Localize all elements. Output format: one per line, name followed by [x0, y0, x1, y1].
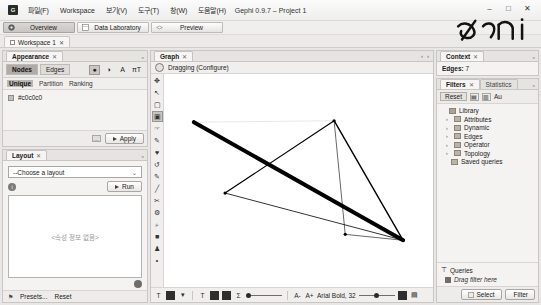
tab-filters[interactable]: Filters ✕: [440, 79, 480, 89]
tab-layout-close-icon[interactable]: ✕: [36, 152, 41, 159]
mode-data-laboratory-button[interactable]: Data Laboratory: [77, 22, 149, 33]
label-size-down-icon[interactable]: A-: [293, 291, 302, 300]
chevron-right-icon[interactable]: ›: [446, 133, 451, 139]
select-button[interactable]: Select: [461, 289, 501, 300]
screenshot-icon[interactable]: ▤: [410, 291, 419, 300]
graph-node[interactable]: [223, 191, 226, 194]
filter-button[interactable]: Filter: [505, 289, 535, 300]
line-tool-icon[interactable]: ╱: [152, 183, 163, 194]
tab-context-close-icon[interactable]: ✕: [473, 53, 478, 60]
appearance-tab-nodes[interactable]: Nodes: [6, 64, 38, 75]
brush-tool-icon[interactable]: ♥: [152, 147, 163, 158]
graph-edge[interactable]: [194, 122, 403, 240]
graph-node[interactable]: [402, 239, 405, 242]
square-tool-icon[interactable]: ■: [152, 231, 163, 242]
tree-item-dynamic[interactable]: › Dynamic: [441, 124, 534, 131]
pencil-tool-icon[interactable]: ✎: [152, 171, 163, 182]
mode-preview-button[interactable]: Preview: [151, 22, 223, 33]
color-box-icon[interactable]: [398, 291, 407, 300]
appearance-mode-partition[interactable]: Partition: [39, 80, 63, 87]
tree-item-edges[interactable]: › Edges: [441, 133, 534, 140]
reset-link[interactable]: Reset: [54, 293, 71, 300]
color-icon[interactable]: ●: [89, 65, 100, 75]
gear-icon[interactable]: [134, 280, 142, 288]
node-select-icon[interactable]: ▣: [152, 111, 163, 122]
tree-item-saved-queries[interactable]: Saved queries: [441, 158, 534, 165]
context-minimize-icon[interactable]: ▫: [533, 54, 535, 61]
label-size-slider[interactable]: [359, 293, 395, 298]
minimize-button[interactable]: –: [480, 1, 499, 15]
menu-tools[interactable]: 도구(T): [137, 4, 160, 16]
workspace-close-icon[interactable]: ✕: [59, 39, 64, 46]
layout-select[interactable]: --Choose a layout ⌄: [8, 166, 142, 178]
size-icon[interactable]: ◑: [103, 65, 114, 75]
tree-item-operator[interactable]: › Operator: [441, 141, 534, 148]
cursor-tool-icon[interactable]: ↖: [152, 87, 163, 98]
tab-graph[interactable]: Graph ✕: [154, 51, 193, 61]
graph-node[interactable]: [192, 121, 195, 124]
graph-node[interactable]: [344, 233, 347, 236]
graph-node[interactable]: [333, 119, 336, 122]
label-font-button[interactable]: Arial Bold, 32: [317, 292, 356, 299]
menu-help[interactable]: 도움말(H): [197, 4, 227, 16]
settings-tool-icon[interactable]: ⚙: [152, 207, 163, 218]
tree-item-attributes[interactable]: › Attributes: [441, 116, 534, 123]
node-shape-icon[interactable]: [166, 291, 175, 300]
menu-window[interactable]: 창(W): [169, 4, 188, 16]
appearance-minimize-icon[interactable]: ▫: [142, 54, 144, 61]
mode-overview-button[interactable]: Overview: [3, 22, 75, 33]
presets-link[interactable]: Presets...: [20, 293, 47, 300]
rotate-tool-icon[interactable]: ↺: [152, 159, 163, 170]
graph-edge[interactable]: [225, 193, 403, 240]
appearance-tab-edges[interactable]: Edges: [40, 64, 70, 75]
scissors-tool-icon[interactable]: ✂: [152, 195, 163, 206]
info-icon[interactable]: i: [8, 183, 16, 191]
filter-export-icon[interactable]: ▥: [482, 93, 491, 101]
menu-view[interactable]: 보기(V): [105, 4, 128, 16]
graph-edge[interactable]: [194, 121, 334, 122]
color-row[interactable]: #c0c0c0: [8, 94, 142, 101]
layout-minimize-icon[interactable]: ▫: [142, 153, 144, 160]
chevron-right-icon[interactable]: ›: [446, 125, 451, 131]
run-button[interactable]: Run: [107, 181, 142, 192]
tab-layout[interactable]: Layout ✕: [6, 150, 47, 160]
chevron-right-icon[interactable]: ›: [446, 142, 451, 148]
palette-button[interactable]: …: [92, 135, 101, 142]
menu-file[interactable]: 파일(F): [27, 4, 50, 16]
tab-context[interactable]: Context ✕: [440, 51, 484, 61]
tab-statistics[interactable]: Statistics: [480, 79, 518, 89]
graph-visualization[interactable]: [164, 74, 433, 287]
graph-edge[interactable]: [225, 121, 334, 193]
drag-tool-icon[interactable]: ✥: [152, 75, 163, 86]
label-toggle-icon[interactable]: T: [154, 291, 163, 300]
tab-appearance[interactable]: Appearance ✕: [6, 51, 63, 61]
graph-canvas[interactable]: [164, 74, 433, 287]
appearance-mode-ranking[interactable]: Ranking: [69, 80, 93, 87]
filters-minimize-icon[interactable]: ▫: [533, 82, 535, 89]
graph-tool-label[interactable]: Dragging (Configure): [168, 64, 229, 71]
label-size-icon[interactable]: πT: [131, 65, 142, 75]
graph-nav-next-icon[interactable]: ›: [427, 53, 429, 59]
maximize-button[interactable]: □: [499, 1, 518, 15]
filters-autoapply-label[interactable]: Au: [494, 93, 502, 100]
menu-workspace[interactable]: Workspace: [59, 6, 96, 15]
dropdown-icon[interactable]: ▾: [178, 291, 187, 300]
filters-reset-button[interactable]: Reset: [440, 92, 467, 101]
close-button[interactable]: ✕: [518, 1, 537, 15]
tree-item-topology[interactable]: › Topology: [441, 150, 534, 157]
dot-tool-icon[interactable]: •: [152, 255, 163, 266]
label-color-icon[interactable]: A: [117, 65, 128, 75]
person-tool-icon[interactable]: ♟: [152, 243, 163, 254]
sigma-icon[interactable]: Σ: [234, 291, 243, 300]
rectangle-select-icon[interactable]: ▢: [152, 99, 163, 110]
label-size-up-icon[interactable]: A+: [305, 291, 314, 300]
tab-filters-close-icon[interactable]: ✕: [469, 81, 474, 88]
tab-graph-close-icon[interactable]: ✕: [182, 53, 187, 60]
edge-thumbnail2-icon[interactable]: [222, 291, 231, 300]
workspace-tab[interactable]: Workspace 1 ✕: [4, 36, 70, 47]
edge-thumbnail-icon[interactable]: [210, 291, 219, 300]
queries-drop-zone[interactable]: Drag filter here: [445, 276, 534, 283]
edge-weight-slider[interactable]: [246, 293, 282, 298]
color-swatch[interactable]: [8, 95, 14, 101]
drag-mode-icon[interactable]: [155, 63, 164, 72]
